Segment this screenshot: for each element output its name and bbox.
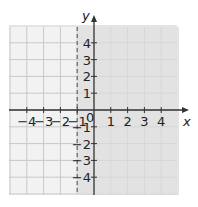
svg-text:−2: −2 [72,137,91,152]
origin-label: 0 [86,110,94,125]
svg-text:1: 1 [107,114,115,129]
svg-text:3: 3 [140,114,148,129]
x-axis-arrow-icon [182,107,189,113]
svg-text:−4: −4 [72,170,91,185]
svg-text:2: 2 [123,114,131,129]
svg-text:2: 2 [83,69,91,84]
x-axis-label: x [182,114,191,129]
svg-text:1: 1 [83,86,91,101]
svg-text:3: 3 [83,53,91,68]
inequality-graph: −4−3−2−112344321−1−2−3−4 x y 0 [0,0,198,207]
y-axis-arrow-icon [91,15,97,22]
svg-text:4: 4 [157,114,165,129]
svg-text:4: 4 [83,36,91,51]
y-axis-label: y [81,8,90,23]
svg-text:−3: −3 [72,153,91,168]
